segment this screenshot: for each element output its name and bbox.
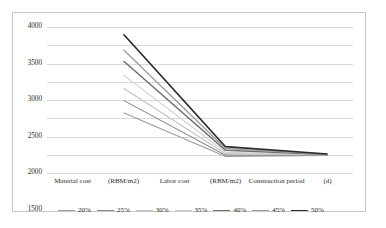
y-axis-tick-label: 3000 xyxy=(28,96,42,103)
x-axis-labels: Material cost(RBM/m2)Labor cost(RBM/m2)C… xyxy=(47,177,353,201)
legend-label: 30% xyxy=(156,207,169,214)
series-line-50pct xyxy=(124,34,328,154)
legend-item[interactable]: 45% xyxy=(252,207,285,214)
legend-swatch-icon xyxy=(58,210,75,211)
gridline: 0 xyxy=(47,173,353,174)
legend-item[interactable]: 20% xyxy=(58,207,91,214)
legend-label: 50% xyxy=(311,207,324,214)
legend-swatch-icon xyxy=(175,210,192,211)
legend-label: 20% xyxy=(78,207,91,214)
legend-swatch-icon xyxy=(213,210,230,211)
series-line-45pct xyxy=(124,50,328,155)
legend-item[interactable]: 50% xyxy=(291,207,324,214)
y-axis-tick-label: 3500 xyxy=(28,60,42,67)
legend-label: 35% xyxy=(195,207,208,214)
chart-screenshot: 40003500300025002000150010005000 Materia… xyxy=(0,0,386,228)
legend-swatch-icon xyxy=(97,210,114,211)
legend-swatch-icon xyxy=(252,210,269,211)
legend-label: 45% xyxy=(272,207,285,214)
y-axis-tick-label: 2000 xyxy=(28,169,42,176)
legend-item[interactable]: 35% xyxy=(175,207,208,214)
y-axis-tick-label: 2500 xyxy=(28,133,42,140)
legend-label: 25% xyxy=(117,207,130,214)
legend-item[interactable]: 40% xyxy=(213,207,246,214)
chart-frame: 40003500300025002000150010005000 Materia… xyxy=(12,12,366,212)
y-axis-tick-label: 4000 xyxy=(28,23,42,30)
legend-swatch-icon xyxy=(291,210,308,211)
series-lines xyxy=(47,27,353,173)
x-axis-label: (d) xyxy=(297,177,359,185)
legend-label: 40% xyxy=(233,207,246,214)
chart-legend: 20%25%30%35%40%45%50% xyxy=(23,203,359,217)
legend-item[interactable]: 25% xyxy=(97,207,130,214)
plot-area: 40003500300025002000150010005000 xyxy=(47,27,353,173)
legend-item[interactable]: 30% xyxy=(136,207,169,214)
legend-swatch-icon xyxy=(136,210,153,211)
